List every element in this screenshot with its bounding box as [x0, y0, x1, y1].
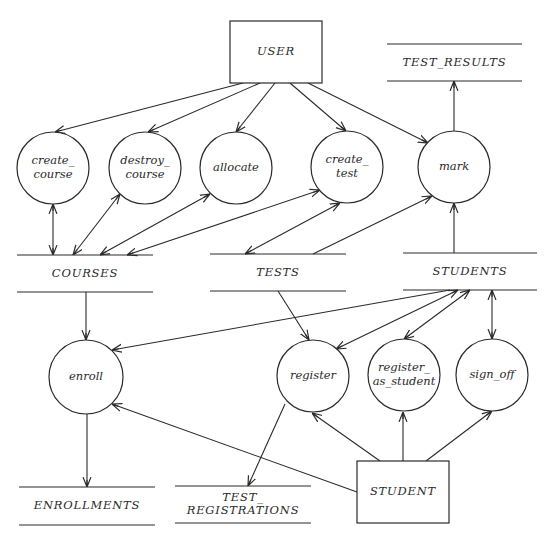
external-entity-student: STUDENT — [357, 461, 449, 523]
data-store-label: ENROLLMENTS — [33, 498, 140, 512]
process-register-as-student: register_as_student — [368, 339, 440, 411]
process-label: allocate — [213, 160, 259, 174]
process-label: register — [290, 368, 338, 382]
flow-student-to-enroll — [112, 404, 357, 492]
entity-label: STUDENT — [370, 484, 437, 498]
process-allocate: allocate — [200, 132, 272, 204]
flow-student-to-register — [312, 413, 380, 461]
data-store-test-registrations: TEST_REGISTRATIONS — [175, 486, 311, 523]
flow-user-to-mark — [308, 83, 428, 143]
data-flow-diagram: TEST_RESULTSCOURSESTESTSSTUDENTSENROLLME… — [0, 0, 552, 537]
process-create-course: create_course — [17, 132, 89, 204]
data-stores: TEST_RESULTSCOURSESTESTSSTUDENTSENROLLME… — [17, 44, 537, 525]
data-store-tests: TESTS — [210, 254, 346, 291]
flow-user-to-destroy-course — [148, 83, 260, 132]
process-create-test: create_test — [311, 131, 383, 203]
external-entity-user: USER — [230, 21, 322, 83]
data-store-enrollments: ENROLLMENTS — [19, 487, 155, 525]
process-label: test — [336, 166, 358, 180]
flow-register-as-student-to-students — [404, 290, 470, 339]
flow-user-to-create-test — [290, 83, 346, 131]
flow-student-to-sign-off — [426, 411, 492, 461]
process-label: enroll — [69, 369, 103, 383]
data-store-test-results: TEST_RESULTS — [387, 44, 522, 81]
process-mark: mark — [418, 131, 490, 203]
data-store-label: TEST_RESULTS — [403, 55, 507, 69]
process-enroll: enroll — [49, 340, 123, 414]
process-label: course — [34, 167, 73, 181]
process-label: course — [126, 167, 165, 181]
data-store-label: COURSES — [52, 266, 118, 280]
process-label: create_ — [32, 153, 75, 167]
process-label: sign_off — [469, 367, 516, 381]
process-label: register_ — [378, 360, 430, 374]
flow-tests-to-mark — [313, 196, 432, 254]
data-store-courses: COURSES — [17, 255, 153, 292]
process-label: as_student — [373, 374, 436, 388]
data-store-label: TESTS — [256, 265, 300, 279]
process-label: create_ — [326, 152, 369, 166]
entity-label: USER — [257, 44, 295, 58]
flow-register-to-test-registrations — [248, 404, 285, 486]
flow-destroy-course-to-courses — [73, 194, 120, 255]
process-label: mark — [439, 159, 469, 173]
flow-user-to-create-course — [55, 83, 243, 132]
data-store-label: REGISTRATIONS — [186, 503, 300, 517]
data-store-label: TEST_ — [222, 490, 263, 504]
process-label: destroy_ — [120, 153, 170, 167]
process-destroy-course: destroy_course — [109, 132, 181, 204]
process-register: register — [277, 340, 349, 412]
process-sign-off: sign_off — [456, 339, 528, 411]
data-store-label: STUDENTS — [433, 264, 508, 278]
data-store-students: STUDENTS — [403, 253, 537, 290]
